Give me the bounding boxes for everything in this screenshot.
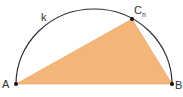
label-c-main: C	[134, 4, 142, 16]
label-k: k	[41, 12, 47, 23]
triangle-abc	[16, 19, 172, 84]
label-a: A	[2, 79, 9, 90]
label-c-subscript: n	[142, 11, 146, 18]
point-b	[170, 82, 174, 86]
thales-diagram	[0, 0, 183, 97]
label-c: Cn	[134, 5, 146, 18]
point-a	[14, 82, 18, 86]
label-b: B	[175, 80, 182, 91]
